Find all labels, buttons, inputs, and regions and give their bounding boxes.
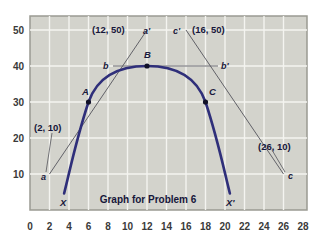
annotation-coord-12-50: (12, 50) xyxy=(92,24,125,35)
x-tick-label-0: 0 xyxy=(27,221,33,232)
y-tick-label-40: 40 xyxy=(13,61,25,72)
y-tick-label-10: 10 xyxy=(13,169,25,180)
ray-label-c-prime: c' xyxy=(173,26,181,36)
x-tick-label-4: 4 xyxy=(66,221,72,232)
ray-label-b-prime: b' xyxy=(221,61,229,71)
ray-label-a: a xyxy=(41,172,46,182)
graph-svg: 50 40 30 20 10 0 2 4 6 8 10 12 14 16 18 … xyxy=(0,0,314,237)
x-tick-label-26: 26 xyxy=(278,221,290,232)
x-tick-label-22: 22 xyxy=(239,221,251,232)
annotation-coord-16-50: (16, 50) xyxy=(192,24,225,35)
point-label-A: A xyxy=(81,86,89,97)
ray-label-a-prime: a' xyxy=(143,26,151,36)
data-point-A xyxy=(86,99,91,104)
figure-page: 50 40 30 20 10 0 2 4 6 8 10 12 14 16 18 … xyxy=(0,0,314,237)
curve-endpoint-label-X: X xyxy=(59,197,67,208)
x-tick-label-2: 2 xyxy=(47,221,53,232)
x-tick-label-16: 16 xyxy=(180,221,192,232)
curve-endpoint-label-X-prime: X' xyxy=(225,197,235,208)
figure-caption: Graph for Problem 6 xyxy=(100,194,197,205)
x-tick-label-6: 6 xyxy=(86,221,92,232)
y-tick-label-20: 20 xyxy=(13,133,25,144)
x-tick-label-14: 14 xyxy=(161,221,173,232)
y-tick-label-50: 50 xyxy=(13,25,25,36)
annotation-coord-2-10: (2, 10) xyxy=(34,122,61,133)
point-label-B: B xyxy=(144,49,151,60)
x-tick-label-20: 20 xyxy=(219,221,231,232)
plot-panel-background xyxy=(30,16,307,210)
graph-figure: 50 40 30 20 10 0 2 4 6 8 10 12 14 16 18 … xyxy=(0,0,314,237)
data-point-C xyxy=(203,99,208,104)
x-tick-label-24: 24 xyxy=(258,221,270,232)
x-tick-label-8: 8 xyxy=(105,221,111,232)
data-point-B xyxy=(144,63,149,68)
x-tick-label-12: 12 xyxy=(141,221,153,232)
x-tick-label-10: 10 xyxy=(122,221,134,232)
ray-label-c: c xyxy=(288,171,293,181)
ray-label-b: b xyxy=(103,61,109,71)
annotation-coord-26-10: (26, 10) xyxy=(258,141,291,152)
point-label-C: C xyxy=(209,86,216,97)
x-tick-label-28: 28 xyxy=(297,221,309,232)
x-tick-label-18: 18 xyxy=(200,221,212,232)
y-tick-label-30: 30 xyxy=(13,97,25,108)
